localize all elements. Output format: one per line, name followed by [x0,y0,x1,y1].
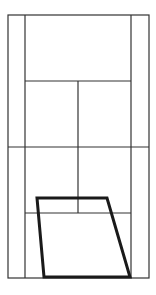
highlight-region [37,198,130,277]
court-lines [8,15,149,278]
tennis-court-diagram [0,0,156,295]
